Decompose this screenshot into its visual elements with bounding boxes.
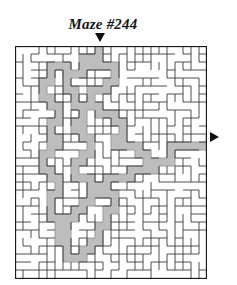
page-title: Maze #244 — [0, 16, 206, 33]
solution-cell — [55, 222, 63, 230]
solution-cell — [111, 118, 119, 126]
solution-cell — [103, 206, 111, 214]
solution-cell — [95, 190, 103, 198]
solution-cell — [111, 70, 119, 78]
solution-cell — [55, 134, 63, 142]
solution-cell — [103, 78, 111, 86]
solution-cell — [47, 150, 55, 158]
solution-cell — [199, 142, 207, 150]
solution-cell — [71, 158, 79, 166]
solution-cell — [95, 230, 103, 238]
solution-cell — [39, 86, 47, 94]
solution-cell — [71, 254, 79, 262]
solution-cell — [95, 62, 103, 70]
solution-cell — [55, 214, 63, 222]
solution-cell — [103, 86, 111, 94]
solution-cell — [119, 174, 127, 182]
solution-cell — [87, 246, 95, 254]
solution-cell — [47, 166, 55, 174]
solution-cell — [95, 110, 103, 118]
solution-cell — [47, 94, 55, 102]
solution-cell — [87, 198, 95, 206]
solution-cell — [39, 78, 47, 86]
solution-cell — [39, 166, 47, 174]
solution-cell — [103, 214, 111, 222]
solution-cell — [103, 182, 111, 190]
solution-cell — [95, 222, 103, 230]
solution-cell — [47, 174, 55, 182]
solution-cell — [95, 86, 103, 94]
solution-cell — [55, 118, 63, 126]
solution-cell — [55, 238, 63, 246]
solution-cell — [79, 134, 87, 142]
solution-cell — [55, 102, 63, 110]
solution-cell — [143, 166, 151, 174]
solution-cell — [87, 238, 95, 246]
solution-cell — [167, 158, 175, 166]
solution-cell — [111, 78, 119, 86]
solution-cell — [63, 70, 71, 78]
solution-cell — [39, 94, 47, 102]
solution-cell — [79, 198, 87, 206]
solution-cell — [71, 70, 79, 78]
solution-cell — [63, 238, 71, 246]
solution-cell — [55, 182, 63, 190]
solution-cell — [87, 182, 95, 190]
solution-cell — [111, 142, 119, 150]
solution-cell — [71, 118, 79, 126]
solution-cell — [103, 110, 111, 118]
solution-cell — [79, 102, 87, 110]
solution-cell — [79, 62, 87, 70]
solution-cell — [103, 222, 111, 230]
solution-cell — [167, 142, 175, 150]
solution-cell — [95, 102, 103, 110]
solution-cell — [47, 118, 55, 126]
solution-cell — [111, 134, 119, 142]
solution-cell — [63, 78, 71, 86]
solution-cell — [39, 150, 47, 158]
solution-cell — [175, 142, 183, 150]
solution-cell — [55, 190, 63, 198]
solution-cell — [63, 214, 71, 222]
solution-cell — [119, 142, 127, 150]
solution-cell — [71, 214, 79, 222]
solution-cell — [71, 94, 79, 102]
solution-cell — [79, 254, 87, 262]
solution-cell — [63, 254, 71, 262]
solution-cell — [87, 190, 95, 198]
maze-page: Maze #244 — [0, 0, 237, 285]
solution-cell — [87, 150, 95, 158]
solution-cell — [71, 86, 79, 94]
solution-cell — [79, 126, 87, 134]
solution-cell — [63, 230, 71, 238]
solution-cell — [119, 126, 127, 134]
solution-cell — [47, 214, 55, 222]
solution-cell — [143, 158, 151, 166]
solution-cell — [135, 166, 143, 174]
solution-cell — [47, 142, 55, 150]
solution-cell — [151, 166, 159, 174]
solution-cell — [71, 206, 79, 214]
solution-cell — [143, 150, 151, 158]
solution-cell — [111, 62, 119, 70]
solution-cell — [47, 198, 55, 206]
solution-cell — [95, 182, 103, 190]
solution-cell — [127, 166, 135, 174]
solution-cell — [79, 70, 87, 78]
solution-cell — [127, 174, 135, 182]
solution-cell — [47, 70, 55, 78]
solution-cell — [71, 102, 79, 110]
solution-cell — [87, 62, 95, 70]
triangle-right-icon — [210, 132, 219, 142]
solution-cell — [95, 238, 103, 246]
solution-cell — [79, 54, 87, 62]
solution-cell — [71, 174, 79, 182]
solution-cell — [111, 110, 119, 118]
solution-cell — [111, 190, 119, 198]
solution-cell — [87, 134, 95, 142]
solution-cell — [167, 150, 175, 158]
solution-cell — [47, 126, 55, 134]
solution-cell — [47, 78, 55, 86]
solution-cell — [127, 142, 135, 150]
solution-cell — [55, 174, 63, 182]
